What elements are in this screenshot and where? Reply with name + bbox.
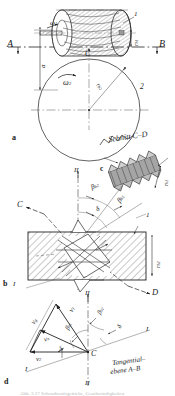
axis-I-right-line bbox=[136, 214, 146, 218]
label-centre-C: C bbox=[85, 50, 90, 58]
label-gear-1: 1 bbox=[134, 11, 138, 18]
section-C-arrow bbox=[26, 207, 44, 214]
tooth-strip-body bbox=[108, 155, 160, 187]
panel-label-a: a bbox=[12, 134, 16, 142]
label-gear-1-b: 1 bbox=[146, 212, 150, 219]
label-radius-rb1: rb1 bbox=[133, 39, 140, 46]
label-axis-II-d-bottom: II bbox=[85, 380, 90, 387]
panel-label-b: b bbox=[3, 280, 7, 288]
label-axis-distance-a: a bbox=[40, 65, 47, 69]
label-axis-II-b: II bbox=[74, 167, 79, 174]
angle-arc-inner bbox=[78, 212, 107, 228]
label-v-2: v2 bbox=[36, 356, 41, 363]
label-section-D: D bbox=[152, 288, 158, 297]
label-omega2: ω2 bbox=[63, 79, 71, 87]
panel-c-leader-left bbox=[104, 158, 118, 163]
vector-vg bbox=[30, 304, 56, 352]
label-radius-rb2-b: rb2 bbox=[155, 261, 162, 268]
label-axis-I-d-right: I bbox=[146, 326, 148, 333]
panel-label-c: c bbox=[100, 165, 103, 173]
label-section-C: C bbox=[17, 200, 23, 209]
panel-c-leader-right bbox=[158, 158, 168, 166]
label-gear-2: 2 bbox=[140, 83, 144, 91]
label-omega1: ω1 bbox=[50, 20, 57, 27]
rb2-endpoint bbox=[124, 67, 126, 69]
delta-arrow bbox=[86, 212, 94, 216]
label-axis-A: A bbox=[7, 39, 13, 49]
panel-d-arc-beta-b2 bbox=[88, 322, 104, 330]
worm-contact-marker bbox=[119, 31, 124, 36]
figure-caption: Abb. 3.17 Schraubwalzgetriebe, Geschwind… bbox=[20, 391, 124, 396]
label-axis-I-b: I bbox=[13, 281, 15, 288]
figure-svg bbox=[0, 0, 175, 396]
panel-c-graphics bbox=[104, 149, 168, 192]
tooth-tip-top bbox=[72, 220, 86, 232]
label-radius-rb2-c: rb2 bbox=[163, 180, 170, 186]
radius-rb2-line bbox=[89, 68, 125, 110]
section-C-leader bbox=[44, 214, 62, 234]
vg-construction-line bbox=[26, 300, 53, 350]
panel-d-beta-b2-arrow bbox=[90, 318, 96, 324]
panel-d-delta-arrow bbox=[108, 330, 116, 334]
panel-b-graphics bbox=[26, 171, 152, 294]
label-axis-II-d-top: II bbox=[85, 290, 90, 297]
label-axis-B: B bbox=[159, 39, 165, 49]
label-pole-C: C bbox=[91, 350, 96, 358]
label-axis-I-d-left: I bbox=[25, 366, 27, 373]
section-D-arrow bbox=[128, 286, 150, 294]
panel-label-d: d bbox=[4, 378, 8, 386]
panel-d-arc-delta2 bbox=[100, 338, 106, 344]
beta-b1-arrow bbox=[114, 206, 122, 210]
gear-geometry-figure bbox=[0, 0, 175, 396]
